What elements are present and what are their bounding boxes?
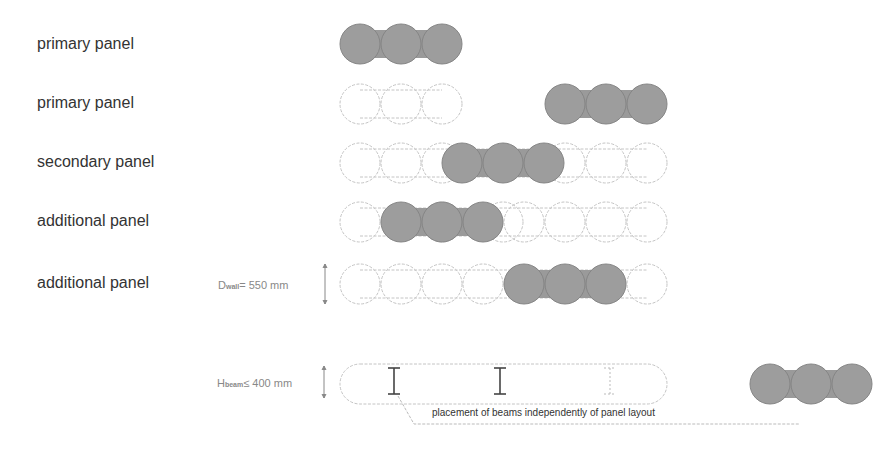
- wall-dimension-marker: [323, 264, 327, 304]
- panel-secondary: [442, 143, 564, 183]
- i-beam-icon-1: [388, 368, 400, 394]
- beam-slab: [340, 364, 667, 404]
- beam-placement-note: placement of beams independently of pane…: [432, 407, 655, 418]
- i-beam-icon-2: [494, 368, 506, 394]
- panel-primary-2: [545, 84, 667, 124]
- panel-standalone: [750, 364, 872, 404]
- i-beam-icon-3-ghost: [604, 368, 616, 394]
- panel-primary-outline: [340, 84, 462, 124]
- panel-additional-2: [504, 264, 626, 304]
- panel-primary-1: [340, 24, 462, 64]
- beam-height-marker: [322, 366, 326, 398]
- panel-diagram: [0, 0, 894, 451]
- panel-additional-1: [381, 202, 503, 242]
